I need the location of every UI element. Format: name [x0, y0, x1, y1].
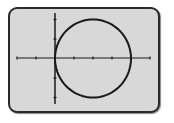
graph-plot [0, 0, 174, 123]
